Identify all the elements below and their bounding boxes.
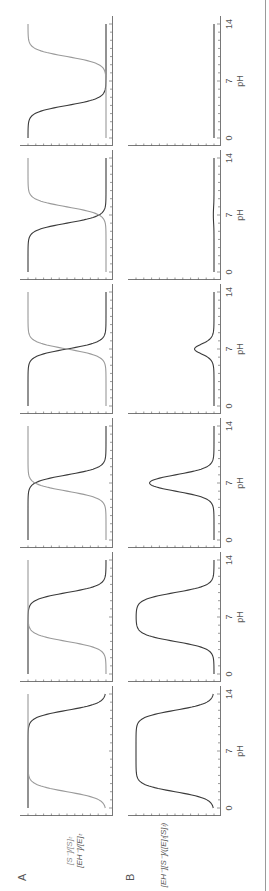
panel-5: 0714pH (20, 150, 245, 280)
x-tick-label: 14 (224, 689, 234, 699)
x-axis-label: pH (235, 611, 245, 623)
enzyme-curve (28, 560, 106, 674)
enzyme-curve (28, 426, 106, 540)
enzyme-curve (28, 694, 105, 808)
product-curve (136, 560, 214, 674)
x-axis-label: pH (235, 343, 245, 355)
product-curve (136, 694, 213, 808)
x-axis-label: pH (235, 477, 245, 489)
substrate-curve (28, 158, 106, 272)
x-tick-label: 0 (224, 805, 234, 810)
x-tick-label: 0 (224, 403, 234, 408)
upright-figure: 0714pH0714pH0714pH0714pH0714pH0714pH A B… (16, 16, 245, 888)
ph-figure: 0714pH0714pH0714pH0714pH0714pH0714pH A B… (0, 0, 269, 891)
panel-1: 0714pH (20, 686, 245, 816)
x-tick-label: 7 (224, 480, 234, 485)
panel-4: 0714pH (20, 284, 245, 414)
x-tick-label: 14 (224, 287, 234, 297)
product-curve (150, 426, 214, 540)
x-tick-label: 7 (224, 346, 234, 351)
x-tick-label: 0 (224, 671, 234, 676)
x-tick-label: 14 (224, 19, 234, 29)
x-tick-label: 7 (224, 614, 234, 619)
substrate-curve (28, 292, 106, 406)
enzyme-curve (28, 24, 106, 138)
substrate-curve (28, 694, 105, 808)
ylabel-a-substrate: [S⁻]/[S]ₜ (65, 836, 74, 866)
x-axis-label: pH (235, 209, 245, 221)
row-label-b: B (124, 874, 136, 881)
x-tick-label: 14 (224, 555, 234, 565)
enzyme-curve (28, 158, 106, 272)
x-tick-label: 7 (224, 748, 234, 753)
x-axis-label: pH (235, 75, 245, 87)
substrate-curve (28, 24, 106, 138)
ylabel-a-enzyme: [EH⁻]/[E]ₜ (75, 833, 84, 869)
substrate-curve (28, 426, 106, 540)
panel-3: 0714pH (20, 418, 245, 548)
x-tick-label: 0 (224, 135, 234, 140)
x-axis-label: pH (235, 745, 245, 757)
x-tick-label: 7 (224, 212, 234, 217)
panels-layer: 0714pH0714pH0714pH0714pH0714pH0714pH (20, 16, 245, 816)
product-curve (213, 158, 214, 272)
substrate-curve (28, 560, 106, 674)
ylabel-b: [EH⁻][S⁻]/([E]ₜ[S]ₜ) (159, 822, 168, 888)
x-tick-label: 0 (224, 537, 234, 542)
panel-2: 0714pH (20, 552, 245, 682)
panel-6: 0714pH (20, 16, 245, 146)
product-curve (195, 292, 215, 406)
x-tick-label: 7 (224, 78, 234, 83)
x-tick-label: 0 (224, 269, 234, 274)
row-label-a: A (16, 873, 28, 881)
chart-canvas: 0714pH0714pH0714pH0714pH0714pH0714pH A B… (0, 0, 269, 891)
x-tick-label: 14 (224, 153, 234, 163)
x-tick-label: 14 (224, 421, 234, 431)
